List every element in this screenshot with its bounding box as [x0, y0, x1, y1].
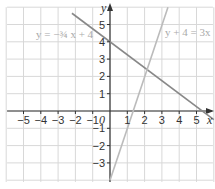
x-tick-label: −2 — [69, 114, 82, 126]
y-tick-label: 1 — [99, 88, 105, 100]
origin-label: 0 — [99, 113, 105, 127]
x-axis-label: x — [206, 113, 213, 127]
x-tick-label: −5 — [17, 114, 30, 126]
x-tick-label: 1 — [124, 114, 130, 126]
graph: y = −¾ x + 4y + 4 = 3x −5−4−3−2−11234554… — [0, 0, 215, 189]
y-tick-label: −2 — [92, 140, 105, 152]
y-tick-label: −3 — [92, 157, 105, 169]
x-tick-label: 5 — [193, 114, 199, 126]
x-tick-label: −3 — [52, 114, 65, 126]
y-tick-label: 4 — [99, 36, 105, 48]
y-axis-label: y — [100, 1, 107, 15]
y-tick-label: 3 — [99, 53, 105, 65]
x-tick-label: −4 — [35, 114, 48, 126]
x-tick-label: 2 — [142, 114, 148, 126]
equation-label-2: y + 4 = 3x — [165, 26, 211, 38]
x-tick-label: 4 — [176, 114, 182, 126]
y-tick-label: 2 — [99, 70, 105, 82]
equation-label-1: y = −¾ x + 4 — [36, 28, 94, 40]
x-tick-label: 3 — [159, 114, 165, 126]
y-tick-label: 5 — [99, 19, 105, 31]
